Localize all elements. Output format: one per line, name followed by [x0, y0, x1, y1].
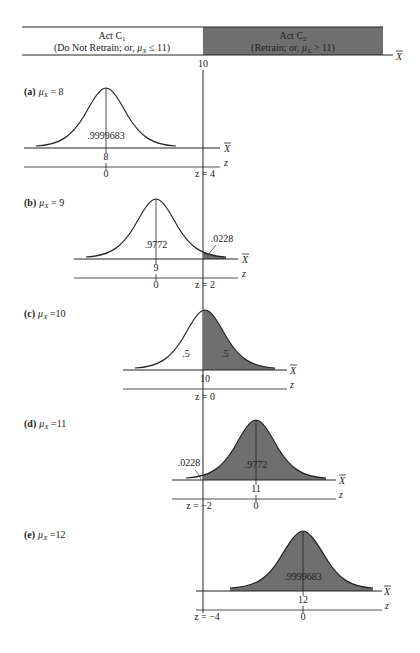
- area-label: .9999683: [87, 130, 125, 141]
- xbar-axis-label: X: [395, 51, 403, 62]
- tail-label: .5: [221, 348, 229, 359]
- svg-text:z: z: [241, 268, 246, 279]
- panel-c: (c)μX =10 .5 .5 X 10 z z = 0: [24, 308, 297, 402]
- area-label: .9772: [145, 239, 168, 250]
- svg-text:X: X: [383, 586, 391, 597]
- z-cut-label: z = 0: [195, 391, 215, 402]
- panel-label: (d)μX =11: [24, 418, 66, 431]
- z-tick: 0: [154, 279, 159, 290]
- svg-text:z: z: [384, 600, 389, 611]
- panel-e: (e)μX =12 .9999683 X 12 z 0 z = −4: [24, 529, 391, 622]
- svg-text:z: z: [289, 379, 294, 390]
- area-label: .9999683: [284, 571, 322, 582]
- xbar-tick: 12: [298, 594, 308, 605]
- header-acts: Act C1 (Do Not Retrain; or, μX ≤ 11) Act…: [22, 27, 403, 69]
- z-cut-label: z = 4: [195, 168, 215, 179]
- area-label: .9772: [245, 459, 268, 470]
- panel-b: (b)μX = 9 .9772 .0228 X 9 z 0 z = 2: [24, 197, 249, 290]
- decision-diagram: Act C1 (Do Not Retrain; or, μX ≤ 11) Act…: [0, 0, 420, 653]
- panel-a: (a)μX = 8 .9999683 X 8 z 0 z = 4: [24, 86, 231, 179]
- xbar-tick: 11: [251, 483, 261, 494]
- panel-label: (c)μX =10: [24, 308, 66, 321]
- svg-text:X: X: [223, 143, 231, 154]
- svg-text:X: X: [338, 475, 346, 486]
- panel-label: (b)μX = 9: [24, 197, 64, 210]
- z-cut-label: z = 2: [195, 279, 215, 290]
- xbar-tick: 8: [104, 151, 109, 162]
- z-tick: 0: [104, 168, 109, 179]
- panel-d: (d)μX =11 .9772 .0228 X 11 z 0 z = −2: [24, 418, 346, 511]
- z-cut-label: z = −2: [186, 500, 212, 511]
- svg-text:z: z: [223, 157, 228, 168]
- main-area: [230, 531, 373, 591]
- area-label: .5: [182, 348, 190, 359]
- z-tick: 0: [254, 500, 259, 511]
- act1-description: (Do Not Retrain; or, μX ≤ 11): [54, 42, 170, 55]
- svg-text:X: X: [289, 365, 297, 376]
- svg-text:z: z: [338, 489, 343, 500]
- tail-area: [135, 310, 275, 370]
- tail-label: .0228: [178, 457, 201, 468]
- xbar-tick: 10: [200, 373, 210, 384]
- cutoff-label: 10: [198, 58, 208, 69]
- svg-text:X: X: [241, 254, 249, 265]
- xbar-tick: 9: [154, 262, 159, 273]
- panel-label: (a)μX = 8: [24, 86, 64, 99]
- tail-label: .0228: [211, 233, 234, 244]
- panel-label: (e)μX =12: [24, 529, 66, 542]
- z-cut-label: z = −4: [194, 611, 220, 622]
- z-tick: 0: [301, 611, 306, 622]
